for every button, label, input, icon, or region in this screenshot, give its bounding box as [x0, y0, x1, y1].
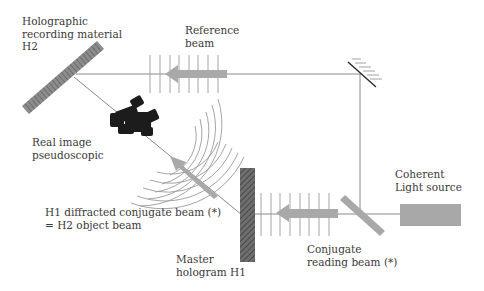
coherent-label-line2: Light source — [395, 181, 462, 194]
diffracted-label-line2: = H2 object beam — [45, 219, 221, 232]
coherent-source-label: Coherent Light source — [395, 168, 462, 193]
beam-lines — [74, 74, 402, 215]
reference-beam-label: Reference beam — [185, 24, 239, 49]
diffracted-beam-label: H1 diffracted conjugate beam (*) = H2 ob… — [45, 206, 221, 231]
real-image-label-line1: Real image — [32, 136, 104, 149]
reference-label-line2: beam — [185, 37, 239, 50]
master-label-line1: Master — [176, 253, 246, 266]
mirror — [348, 59, 382, 87]
real-image-label: Real image pseudoscopic — [32, 136, 104, 161]
h2-label-line2: recording material — [22, 28, 122, 41]
reference-label-line1: Reference — [185, 24, 239, 37]
h2-label-line3: H2 — [22, 40, 122, 53]
conjugate-beam-label: Conjugate reading beam (*) — [307, 243, 397, 268]
h2-label: Holographic recording material H2 — [22, 15, 122, 53]
real-image-label-line2: pseudoscopic — [32, 149, 104, 162]
coherent-light-source — [400, 204, 461, 226]
master-hologram-h1 — [240, 168, 255, 262]
h2-label-line1: Holographic — [22, 15, 122, 28]
diffracted-label-line1: H1 diffracted conjugate beam (*) — [45, 206, 221, 219]
coherent-label-line1: Coherent — [395, 168, 462, 181]
beam-splitter — [340, 195, 385, 236]
conjugate-label-line2: reading beam (*) — [307, 256, 397, 269]
conjugate-label-line1: Conjugate — [307, 243, 397, 256]
real-image-object — [110, 95, 160, 136]
master-hologram-label: Master hologram H1 — [176, 253, 246, 278]
master-label-line2: hologram H1 — [176, 266, 246, 279]
